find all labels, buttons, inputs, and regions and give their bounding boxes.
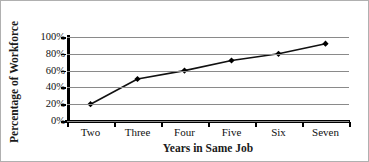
line-series	[67, 37, 349, 121]
plot-area	[67, 37, 349, 121]
x-tick-mark	[349, 122, 351, 127]
x-tick-mark	[255, 122, 257, 127]
x-tick-label: Three	[125, 126, 151, 138]
x-tick-mark	[67, 122, 69, 127]
data-point-marker	[134, 76, 140, 82]
y-tick-label: 100%	[29, 32, 65, 43]
y-axis-title: Percentage of Workforce	[1, 1, 27, 162]
gridline	[67, 87, 349, 88]
y-tick-mark	[61, 87, 66, 89]
y-tick-label: 40%	[29, 82, 65, 93]
x-tick-mark	[161, 122, 163, 127]
x-tick-mark	[302, 122, 304, 127]
data-point-marker	[228, 57, 234, 63]
gridline	[67, 37, 349, 38]
chart-figure-frame: Percentage of Workforce 0%20%40%60%80%10…	[0, 0, 369, 162]
series-line-path	[91, 44, 326, 104]
x-tick-label: Four	[174, 126, 195, 138]
y-tick-mark	[61, 37, 66, 39]
x-tick-label: Seven	[312, 126, 339, 138]
x-tick-mark	[114, 122, 116, 127]
x-axis-title: Years in Same Job	[67, 142, 349, 154]
gridline	[67, 104, 349, 105]
gridline	[67, 54, 349, 55]
x-tick-mark	[208, 122, 210, 127]
y-tick-label: 0%	[29, 116, 65, 127]
y-axis-tick-labels: 0%20%40%60%80%100%	[29, 37, 65, 121]
y-tick-mark	[61, 121, 66, 123]
x-tick-label: Five	[222, 126, 242, 138]
y-tick-mark	[61, 104, 66, 106]
y-tick-label: 20%	[29, 99, 65, 110]
gridline	[67, 71, 349, 72]
x-tick-label: Six	[271, 126, 286, 138]
x-axis-tick-labels: TwoThreeFourFiveSixSeven	[67, 126, 349, 142]
y-tick-label: 60%	[29, 65, 65, 76]
data-point-marker	[322, 41, 328, 47]
y-tick-label: 80%	[29, 49, 65, 60]
x-tick-label: Two	[81, 126, 100, 138]
y-tick-mark	[61, 71, 66, 73]
y-tick-mark	[61, 54, 66, 56]
